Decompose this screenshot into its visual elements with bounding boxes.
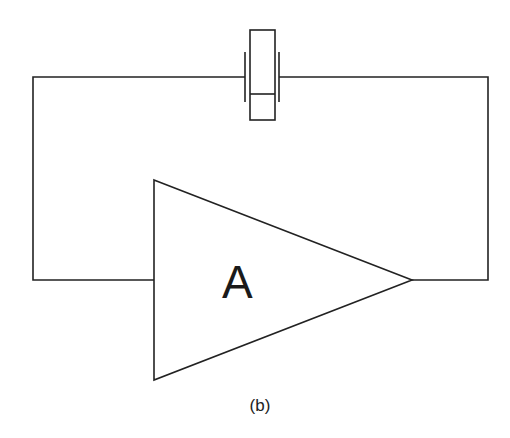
circuit-diagram: A (b): [0, 0, 510, 438]
figure-caption: (b): [250, 396, 271, 415]
amplifier-label: A: [222, 256, 253, 308]
feedback-wire-right: [279, 77, 488, 280]
feedback-wire-left: [33, 77, 245, 280]
crystal-resonator-icon: [245, 30, 279, 120]
amplifier-triangle: [154, 180, 412, 380]
